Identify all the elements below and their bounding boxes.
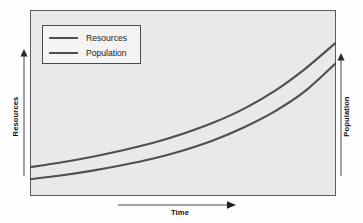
chart-legend: Resources Population: [42, 25, 141, 64]
legend-line-swatch-icon: [49, 52, 78, 54]
legend-label-population: Population: [86, 48, 127, 58]
legend-item-population: Population: [49, 45, 135, 60]
legend-line-swatch-icon: [49, 37, 78, 39]
left-axis-label: Resources: [11, 87, 20, 147]
legend-item-resources: Resources: [49, 30, 135, 45]
exponential-growth-chart: Resources Population Resources Populatio…: [0, 0, 363, 223]
legend-label-resources: Resources: [86, 33, 127, 43]
right-axis-label: Population: [342, 87, 351, 147]
bottom-axis-label: Time: [130, 208, 230, 217]
